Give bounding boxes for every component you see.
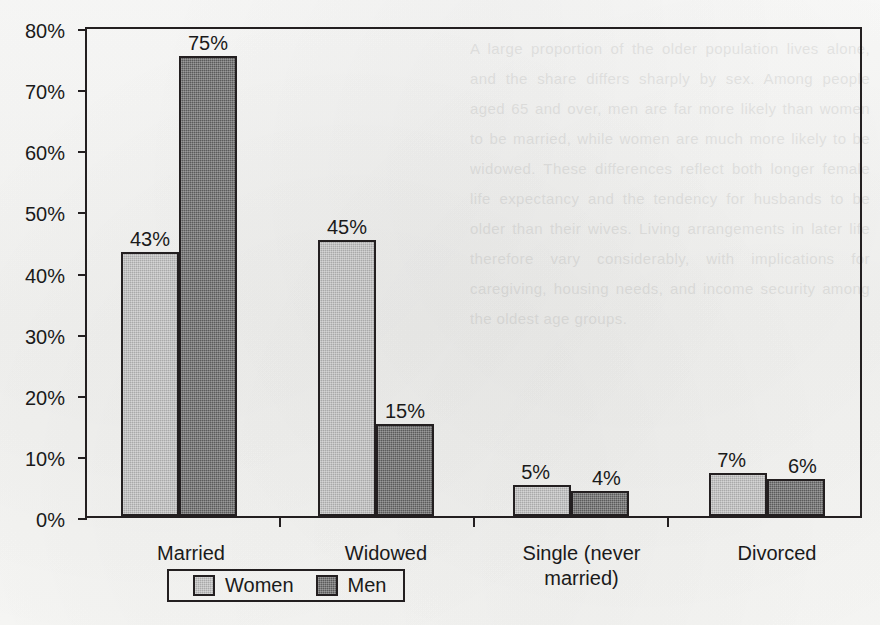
plot-area: 80% 70% 60% 50% 40% 30% 20% 10% 0% (85, 27, 862, 518)
y-tick-40: 40% (78, 274, 87, 276)
y-tick-80: 80% (78, 29, 87, 31)
y-tick-label-60: 60% (0, 142, 65, 165)
y-tick-0: 0% (78, 518, 87, 520)
bar-value-divorced-women: 7% (717, 449, 746, 472)
y-tick-label-50: 50% (0, 203, 65, 226)
y-tick-label-10: 10% (0, 447, 65, 470)
bar-value-divorced-men: 6% (788, 455, 817, 478)
light-gray-swatch-icon (193, 575, 215, 596)
legend-label-men: Men (348, 574, 387, 597)
bar-value-single-women: 5% (521, 461, 550, 484)
x-tick-separator-2 (473, 516, 475, 527)
bar-widowed-men[interactable]: 15% (376, 424, 434, 516)
chart-legend: Women Men (167, 569, 405, 602)
y-tick-20: 20% (78, 396, 87, 398)
legend-entry-women[interactable]: Women (193, 574, 294, 597)
y-tick-30: 30% (78, 335, 87, 337)
y-tick-70: 70% (78, 90, 87, 92)
x-tick-separator-1 (279, 516, 281, 527)
y-tick-60: 60% (78, 151, 87, 153)
y-tick-label-20: 20% (0, 386, 65, 409)
legend-label-women: Women (225, 574, 294, 597)
bar-married-women[interactable]: 43% (121, 252, 179, 516)
bar-value-widowed-men: 15% (385, 400, 425, 423)
x-tick-separator-3 (667, 516, 669, 527)
bar-value-widowed-women: 45% (327, 216, 367, 239)
bar-widowed-women[interactable]: 45% (318, 240, 376, 516)
y-tick-label-30: 30% (0, 325, 65, 348)
bar-value-single-men: 4% (592, 467, 621, 490)
bar-value-married-women: 43% (130, 228, 170, 251)
bar-single-men[interactable]: 4% (571, 491, 629, 516)
legend-entry-men[interactable]: Men (316, 574, 387, 597)
y-tick-10: 10% (78, 457, 87, 459)
y-tick-label-0: 0% (0, 509, 65, 532)
y-tick-label-70: 70% (0, 81, 65, 104)
bar-married-men[interactable]: 75% (179, 56, 237, 516)
chart-page: A large proportion of the older populati… (0, 0, 880, 625)
y-tick-50: 50% (78, 212, 87, 214)
x-category-label-single: Single (never married) (504, 541, 659, 591)
x-category-label-married: Married (116, 541, 266, 566)
bar-divorced-women[interactable]: 7% (709, 473, 767, 516)
x-category-label-divorced: Divorced (702, 541, 852, 566)
bar-single-women[interactable]: 5% (513, 485, 571, 516)
y-tick-label-40: 40% (0, 264, 65, 287)
dark-gray-swatch-icon (316, 575, 338, 596)
bar-value-married-men: 75% (188, 32, 228, 55)
x-category-label-widowed: Widowed (311, 541, 461, 566)
y-tick-label-80: 80% (0, 20, 65, 43)
bar-divorced-men[interactable]: 6% (767, 479, 825, 516)
